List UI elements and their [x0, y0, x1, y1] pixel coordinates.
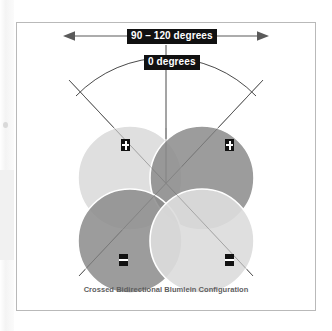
plus-icon-vertical-bar — [229, 141, 231, 150]
lobe-bottom-right — [150, 189, 254, 293]
page-shadow-band — [0, 170, 14, 260]
figure-caption: Crossed Bidirectional Blumlein Configura… — [17, 285, 315, 294]
minus-icon-bar — [119, 259, 128, 261]
plus-icon-vertical-bar — [125, 141, 127, 150]
figure-frame: 90 – 120 degrees 0 degrees Crossed Bidir… — [16, 22, 316, 311]
page-edge-artifact — [0, 0, 14, 331]
polarity-marker-bottom-right — [225, 254, 234, 266]
polarity-marker-top-left — [121, 139, 130, 151]
figure-stage: 90 – 120 degrees 0 degrees Crossed Bidir… — [17, 23, 315, 310]
page-speck — [3, 122, 8, 128]
polarity-marker-top-right — [225, 139, 234, 151]
arrow-left-icon — [63, 31, 75, 41]
polarity-marker-bottom-left — [119, 254, 128, 266]
minus-icon-bar — [225, 259, 234, 261]
angle-range-label: 90 – 120 degrees — [127, 29, 217, 44]
arrow-right-icon — [257, 31, 269, 41]
zero-degrees-label: 0 degrees — [144, 55, 200, 70]
